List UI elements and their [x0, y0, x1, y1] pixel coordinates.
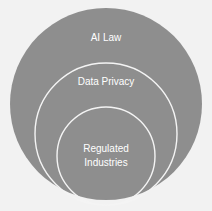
label-ai-law: AI Law [91, 32, 122, 43]
label-data-privacy: Data Privacy [78, 76, 135, 87]
label-industries: Industries [84, 157, 127, 168]
diagram-canvas: AI Law Data Privacy Regulated Industries [0, 0, 212, 211]
nested-circle-diagram: AI Law Data Privacy Regulated Industries [0, 0, 212, 211]
label-regulated: Regulated [83, 143, 129, 154]
